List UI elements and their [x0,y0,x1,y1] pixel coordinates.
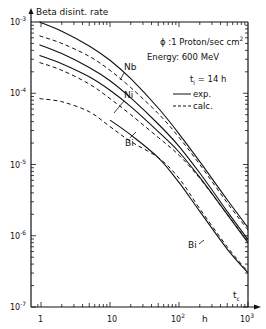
y-tick-label: 10-3 [10,15,26,27]
ni-label: Ni [124,90,133,100]
axes: 11010210310-310-410-510-610-7 [10,8,261,324]
y-tick-label: 10-4 [10,86,26,98]
legend-calc-label: calc. [193,101,213,111]
curve-nb-calc [40,36,249,230]
x-tick-label: 1 [38,315,43,324]
y-tick-label: 10-7 [10,300,26,312]
y-tick-label: 10-5 [10,158,26,170]
x-axis-unit: h [202,314,208,324]
legend-exp-label: exp. [193,89,211,99]
x-axis-arrow-icon [254,305,261,310]
x-tick-label: 103 [240,312,254,324]
y-axis-arrow-icon [29,8,34,14]
bi-label-lower: Bi [188,240,197,250]
y-axis-label: Beta disint. rate [36,7,109,17]
irradiation-time: ti = 14 h [190,74,226,86]
x-tick-label: 102 [171,312,185,324]
y-tick-label: 10-6 [10,229,26,241]
curve-ni-calc [40,63,249,242]
energy-annotation: Energy: 600 MeV [147,52,219,62]
legend: exp. calc. [173,89,213,111]
labels: Beta disint. rate h ϕ :1 Proton/sec cm2 … [36,7,244,324]
x-tick-label: 10 [107,315,117,324]
nb-label: Nb [124,62,137,72]
flux-annotation: ϕ :1 Proton/sec cm2 [160,35,244,47]
bi-label-upper: Bi [125,138,134,148]
beta-disintegration-chart: 11010210310-310-410-510-610-7 NbNiBiBi B… [0,0,266,329]
tc-label: tc [233,290,240,302]
